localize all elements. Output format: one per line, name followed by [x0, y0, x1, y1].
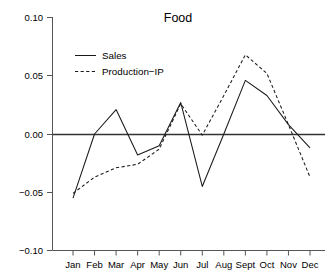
x-tick-label: Sept: [236, 259, 256, 270]
y-tick-label: 0.05: [25, 70, 44, 81]
legend-label-sales: Sales: [102, 50, 127, 61]
x-tick-label: Mar: [108, 259, 124, 270]
y-tick-label: −0.05: [19, 187, 43, 198]
x-tick-label: Apr: [130, 259, 145, 270]
chart-legend: Sales Production−IP: [75, 50, 164, 77]
y-tick-label: 0.00: [25, 129, 44, 140]
y-tick-label: −0.10: [19, 245, 43, 256]
legend-label-production-ip: Production−IP: [102, 66, 164, 77]
y-tick-label: 0.10: [25, 12, 44, 23]
x-tick-label: Jun: [173, 259, 188, 270]
x-tick-label: Jul: [196, 259, 208, 270]
x-tick-label: Oct: [260, 259, 275, 270]
x-tick-label: Aug: [215, 259, 232, 270]
x-tick-label: Jan: [65, 259, 80, 270]
line-chart: Food 0.10 0.05 0.00 −0.05 −0.10 JanFebMa…: [0, 0, 333, 279]
chart-title: Food: [164, 11, 193, 25]
y-axis-ticks: [47, 18, 53, 251]
chart-container: Food 0.10 0.05 0.00 −0.05 −0.10 JanFebMa…: [0, 0, 333, 279]
x-tick-label: Nov: [280, 259, 297, 270]
x-axis-tick-labels: JanFebMarAprMayJunJulAugSeptOctNovDec: [65, 259, 318, 270]
x-tick-label: Feb: [86, 259, 102, 270]
y-axis-tick-labels: 0.10 0.05 0.00 −0.05 −0.10: [19, 12, 43, 256]
x-tick-label: Dec: [302, 259, 319, 270]
x-tick-label: May: [150, 259, 168, 270]
series-line-sales: [73, 80, 310, 198]
x-axis-ticks: [73, 251, 310, 256]
